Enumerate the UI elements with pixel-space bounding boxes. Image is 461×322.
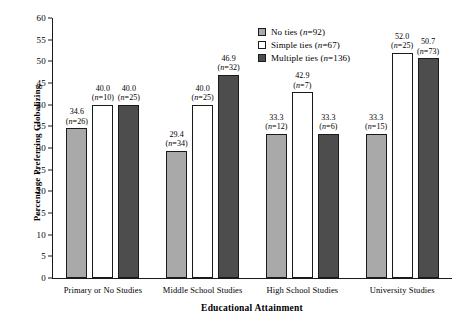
bar-column: 40.0(n=10) — [92, 18, 113, 278]
bar-value-label: 33.3(n=12) — [265, 113, 287, 132]
legend-item: No ties (n=92) — [258, 26, 350, 38]
legend-swatch-icon — [258, 54, 266, 62]
y-axis-tick-label: 5 — [20, 251, 46, 261]
bar — [66, 128, 87, 278]
x-axis-category-label: Middle School Studies — [163, 285, 243, 295]
bar-value-label: 50.7(n=73) — [417, 37, 439, 56]
bar — [92, 105, 113, 278]
bar-value-label: 40.0(n=25) — [191, 84, 213, 103]
bar-value-label: 34.6(n=26) — [66, 107, 88, 126]
y-axis-tick-label: 40 — [20, 100, 46, 110]
bar-group: 33.3(n=15)52.0(n=25)50.7(n=73) — [366, 18, 439, 278]
bar-value-label: 40.0(n=25) — [118, 84, 140, 103]
bar-column: 33.3(n=15) — [366, 18, 387, 278]
x-axis-category-label: University Studies — [370, 285, 435, 295]
bar-value-label: 33.3(n=15) — [365, 113, 387, 132]
legend: No ties (n=92)Simple ties (n=67)Multiple… — [258, 26, 350, 65]
bar — [366, 134, 387, 278]
y-axis-tick-label: 20 — [20, 186, 46, 196]
bar — [418, 58, 439, 278]
bar-value-label: 33.3(n=6) — [319, 113, 337, 132]
bar-value-label: 46.9(n=32) — [217, 54, 239, 73]
y-axis-tick-label: 45 — [20, 78, 46, 88]
legend-item: Multiple ties (n=136) — [258, 52, 350, 64]
x-axis-category-label: Primary or No Studies — [64, 285, 142, 295]
legend-swatch-icon — [258, 28, 266, 36]
legend-label: No ties (n=92) — [271, 27, 325, 37]
bar-column: 52.0(n=25) — [392, 18, 413, 278]
y-axis-tick-label: 60 — [20, 13, 46, 23]
bar-column: 29.4(n=34) — [166, 18, 187, 278]
x-axis-line — [52, 278, 452, 279]
bar — [318, 134, 339, 278]
bar — [266, 134, 287, 278]
bar-column: 46.9(n=32) — [218, 18, 239, 278]
bar — [392, 53, 413, 278]
y-axis-tick-label: 50 — [20, 56, 46, 66]
bar-group: 29.4(n=34)40.0(n=25)46.9(n=32) — [166, 18, 239, 278]
y-axis-tick-label: 55 — [20, 35, 46, 45]
bar — [292, 92, 313, 278]
legend-label: Multiple ties (n=136) — [271, 53, 350, 63]
bar-chart: Percentage Preferring Globalizing 051015… — [0, 0, 461, 322]
bar — [118, 105, 139, 278]
bar-column: 40.0(n=25) — [192, 18, 213, 278]
bar — [166, 151, 187, 278]
legend-item: Simple ties (n=67) — [258, 39, 350, 51]
y-axis-tick-label: 30 — [20, 143, 46, 153]
bar-column: 40.0(n=25) — [118, 18, 139, 278]
y-axis-tick-label: 25 — [20, 165, 46, 175]
x-axis-category-label: High School Studies — [266, 285, 338, 295]
y-axis-tick-label: 10 — [20, 230, 46, 240]
bar-value-label: 29.4(n=34) — [165, 130, 187, 149]
legend-swatch-icon — [258, 41, 266, 49]
x-axis-title: Educational Attainment — [52, 303, 452, 313]
bar — [218, 75, 239, 278]
bar — [192, 105, 213, 278]
y-axis-tick-label: 15 — [20, 208, 46, 218]
y-axis-tick-label: 35 — [20, 121, 46, 131]
bar-value-label: 52.0(n=25) — [391, 32, 413, 51]
bar-column: 50.7(n=73) — [418, 18, 439, 278]
bar-column: 34.6(n=26) — [66, 18, 87, 278]
legend-label: Simple ties (n=67) — [271, 40, 340, 50]
y-axis-tick-labels: 051015202530354045505560 — [0, 0, 52, 322]
y-axis-tick-label: 0 — [20, 273, 46, 283]
plot-area: 34.6(n=26)40.0(n=10)40.0(n=25)29.4(n=34)… — [53, 18, 452, 278]
bar-value-label: 42.9(n=7) — [293, 71, 311, 90]
bar-group: 34.6(n=26)40.0(n=10)40.0(n=25) — [66, 18, 139, 278]
bar-value-label: 40.0(n=10) — [92, 84, 114, 103]
